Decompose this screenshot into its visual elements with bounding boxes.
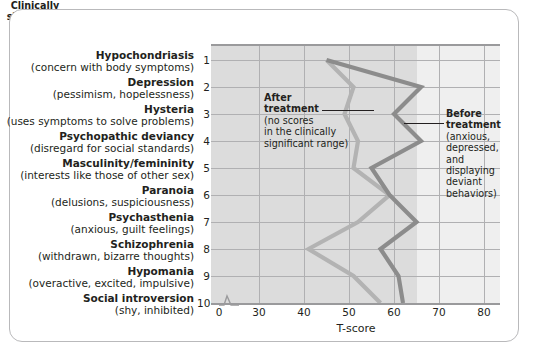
y-category-label: Hypomania(overactive, excited, impulsive…: [28, 266, 194, 289]
x-tick-label: 40: [297, 306, 310, 318]
y-category-name: Hysteria: [7, 104, 194, 116]
annotation-after-treatment: Aftertreatment(no scoresin the clinicall…: [264, 92, 350, 149]
y-category-description: (delusions, suspiciousness): [51, 197, 194, 209]
y-category-description: (withdrawn, bizarre thoughts): [38, 251, 194, 263]
y-category-name: Masculinity/femininity: [20, 158, 194, 170]
y-category-name: Hypomania: [28, 266, 194, 278]
y-category-name: Psychasthenia: [71, 212, 195, 224]
y-category-label: Paranoia(delusions, suspiciousness): [51, 185, 194, 208]
axis-break-icon: [219, 294, 239, 306]
y-category-label: Social introversion(shy, inhibited): [83, 293, 194, 316]
y-category-description: (disregard for social standards): [30, 143, 194, 155]
y-category-number: 9: [197, 270, 210, 282]
y-category-description: (pessimism, hopelessness): [53, 89, 194, 101]
annotation-title: Beforetreatment: [446, 108, 501, 130]
y-category-name: Depression: [53, 77, 194, 89]
x-tick-label: 70: [432, 306, 445, 318]
y-category-number: 8: [197, 243, 210, 255]
x-tick-label: 60: [387, 306, 400, 318]
y-category-number: 1: [197, 54, 210, 66]
y-category-label: Depression(pessimism, hopelessness): [53, 77, 194, 100]
y-category-description: (overactive, excited, impulsive): [28, 278, 194, 290]
x-tick-label: 0: [216, 306, 223, 318]
y-category-number: 10: [197, 297, 210, 309]
x-axis-line: [211, 303, 500, 305]
y-category-description: (uses symptoms to solve problems): [7, 116, 194, 128]
y-category-number: 6: [197, 189, 210, 201]
y-category-name: Schizophrenia: [38, 239, 194, 251]
annotation-body: (no scoresin the clinicallysignificant r…: [264, 115, 348, 149]
y-category-label: Hypochondriasis(concern with body sympto…: [31, 50, 194, 73]
y-category-name: Paranoia: [51, 185, 194, 197]
y-category-name: Social introversion: [83, 293, 194, 305]
y-category-label: Psychasthenia(anxious, guilt feelings): [71, 212, 195, 235]
y-category-description: (shy, inhibited): [83, 305, 194, 317]
annotation-after-leader-line: [322, 110, 374, 111]
y-category-description: (concern with body symptoms): [31, 62, 194, 74]
annotation-before-treatment: Beforetreatment(anxious,depressed,and di…: [446, 108, 512, 199]
y-category-number: 2: [197, 81, 210, 93]
y-category-description: (interests like those of other sex): [20, 170, 194, 182]
y-axis-category-labels: Hypochondriasis(concern with body sympto…: [18, 44, 194, 306]
annotation-title: Aftertreatment: [264, 92, 319, 114]
y-category-number: 5: [197, 162, 210, 174]
y-category-number: 3: [197, 108, 210, 120]
annotation-before-leader-line: [404, 123, 444, 124]
y-category-label: Hysteria(uses symptoms to solve problems…: [7, 104, 194, 127]
x-tick-label: 30: [252, 306, 265, 318]
y-category-label: Masculinity/femininity(interests like th…: [20, 158, 194, 181]
annotation-body: (anxious,depressed,and displayingdeviant…: [446, 131, 499, 199]
y-category-description: (anxious, guilt feelings): [71, 224, 195, 236]
x-tick-label: 50: [342, 306, 355, 318]
y-category-number: 4: [197, 135, 210, 147]
mmpi-profile-chart-figure: Hypochondriasis(concern with body sympto…: [0, 0, 536, 359]
y-category-name: Psychopathic deviancy: [30, 131, 194, 143]
y-category-label: Psychopathic deviancy(disregard for soci…: [30, 131, 194, 154]
y-category-number: 7: [197, 216, 210, 228]
x-axis-title: T-score: [336, 322, 375, 335]
x-tick-label: 80: [477, 306, 490, 318]
y-category-label: Schizophrenia(withdrawn, bizarre thought…: [38, 239, 194, 262]
y-category-name: Hypochondriasis: [31, 50, 194, 62]
